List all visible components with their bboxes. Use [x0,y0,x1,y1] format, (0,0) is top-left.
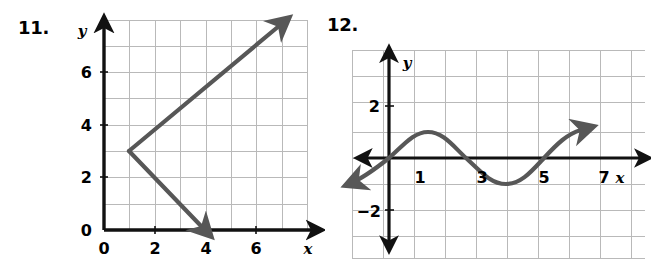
x-tick-label-1: 1 [414,168,425,187]
graph-12: y x 2 −2 1 3 5 7 [325,0,651,266]
problem-12-panel: 12. [325,0,651,266]
y-axis-label-12: y [402,54,413,72]
y-axis-label-11: y [77,22,88,40]
x-tick-label-3: 3 [476,168,487,187]
y-tick-label-neg2: −2 [356,202,381,221]
x-tick-label-4: 4 [200,239,211,258]
y-tick-label-4: 4 [81,116,92,135]
x-tick-label-5: 5 [538,168,549,187]
x-tick-label-2: 2 [149,239,160,258]
x-axis-label-12: x [615,169,626,187]
x-axis-label-11: x [303,240,314,258]
y-tick-label-0: 0 [81,221,92,240]
x-tick-label-6: 6 [250,239,261,258]
y-tick-label-2: 2 [81,168,92,187]
problem-11-panel: 11. [0,0,325,266]
y-tick-label-6: 6 [81,63,92,82]
x-tick-label-0: 0 [98,239,109,258]
x-tick-label-7: 7 [598,168,609,187]
y-tick-label-pos2: 2 [369,97,380,116]
graph-11: y x 0 2 4 6 0 2 4 6 [0,0,325,266]
